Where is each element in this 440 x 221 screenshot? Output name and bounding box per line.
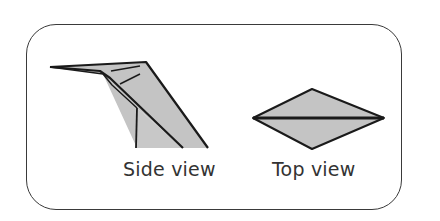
paper-airplane-views <box>0 0 440 221</box>
top-view-label: Top view <box>272 158 355 180</box>
side-view-label: Side view <box>123 158 216 180</box>
side-view-drawing <box>50 62 208 148</box>
top-view-drawing <box>253 89 384 149</box>
